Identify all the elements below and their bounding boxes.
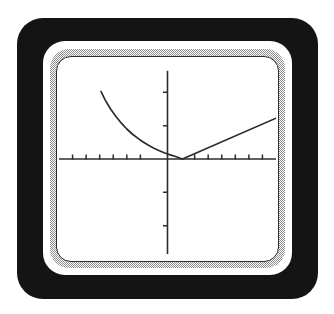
calculator-device — [0, 0, 334, 314]
series-curve-left-branch — [101, 92, 182, 160]
series-line-right-branch — [182, 118, 276, 159]
screen-display[interactable] — [59, 59, 276, 259]
function-plot — [59, 59, 276, 259]
